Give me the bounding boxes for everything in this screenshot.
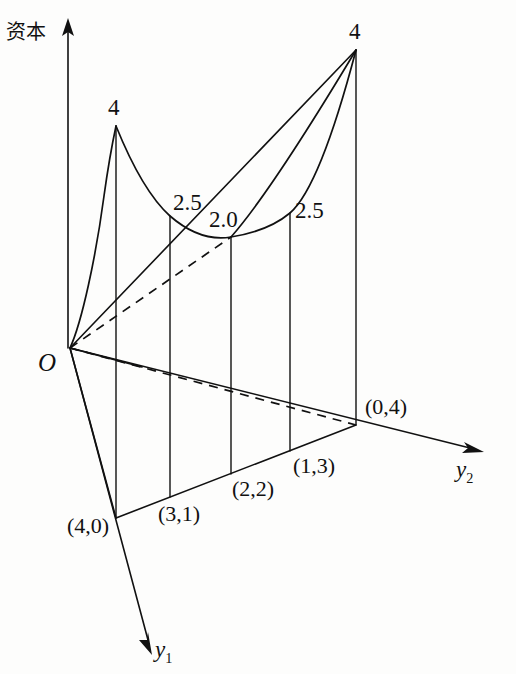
value-label-2-2: 2.0 bbox=[209, 208, 238, 231]
base-point-2-2: (2,2) bbox=[232, 478, 274, 500]
y1-axis-arrowhead bbox=[139, 632, 152, 655]
y2-axis-label: y2 bbox=[456, 458, 473, 485]
y2-axis-label-text: y bbox=[456, 457, 466, 482]
figure-root: 资本 O y1 y2 4 2.5 2.0 2.5 4 (4,0) (3,1) (… bbox=[0, 0, 516, 674]
y2-axis-label-subscript: 2 bbox=[466, 470, 473, 486]
y1-axis-label: y1 bbox=[155, 638, 172, 665]
diagram-canvas bbox=[0, 0, 516, 674]
base-edge-origin-to-0-4 bbox=[70, 348, 142, 367]
y1-axis-label-subscript: 1 bbox=[165, 650, 172, 666]
value-label-3-1: 2.5 bbox=[173, 191, 202, 214]
y1-axis-label-text: y bbox=[155, 637, 165, 662]
base-point-0-4: (0,4) bbox=[365, 396, 407, 418]
value-label-right-peak: 4 bbox=[349, 20, 361, 43]
base-edge-origin-to-4-0 bbox=[70, 348, 116, 518]
vertical-axis bbox=[62, 18, 74, 348]
origin-label: O bbox=[38, 350, 56, 375]
vertical-axis-label: 资本 bbox=[6, 22, 46, 42]
base-point-1-3: (1,3) bbox=[293, 455, 335, 477]
base-point-3-1: (3,1) bbox=[158, 503, 200, 525]
value-label-left-peak: 4 bbox=[108, 96, 120, 119]
value-label-1-3: 2.5 bbox=[295, 199, 324, 222]
base-point-4-0: (4,0) bbox=[67, 515, 109, 537]
left-boundary-curve bbox=[70, 126, 116, 348]
